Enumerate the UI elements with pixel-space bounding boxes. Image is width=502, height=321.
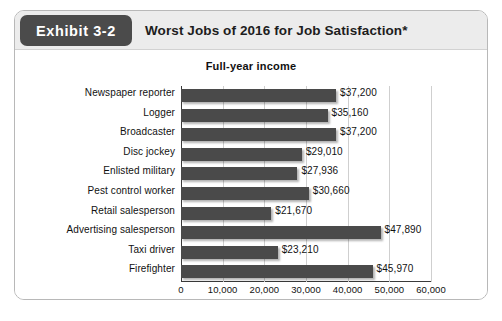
category-label: Broadcaster [120,126,175,137]
bar-row: Disc jockey$29,010 [181,145,431,165]
bar-value-label: $35,160 [332,107,369,118]
category-label: Newspaper reporter [85,87,175,98]
category-label: Pest control worker [88,185,176,196]
bar-value-label: $47,890 [385,224,422,235]
bar-row: Logger$35,160 [181,106,431,126]
bar-value-label: $30,660 [313,185,350,196]
x-tick-label: 60,000 [416,284,446,295]
bar-row: Pest control worker$30,660 [181,184,431,204]
bar [181,265,373,278]
bar [181,167,297,180]
x-tick-label: 0 [178,284,183,295]
x-tick-label: 30,000 [291,284,321,295]
bar-row: Advertising salesperson$47,890 [181,223,431,243]
bar-row: Broadcaster$37,200 [181,125,431,145]
category-label: Advertising salesperson [67,224,175,235]
bar [181,246,278,259]
category-label: Disc jockey [123,146,175,157]
bar-chart-plot: Newspaper reporter$37,200Logger$35,160Br… [181,86,431,282]
bar [181,128,336,141]
x-tick-label: 10,000 [208,284,238,295]
x-axis-tick-labels: 010,00020,00030,00040,00050,00060,000 [181,284,431,300]
bar-value-label: $27,936 [301,165,338,176]
bar-value-label: $37,200 [340,126,377,137]
category-label: Firefighter [129,263,175,274]
category-label: Retail salesperson [91,205,175,216]
exhibit-number-badge: Exhibit 3-2 [20,15,132,46]
bar [181,109,328,122]
exhibit-frame: Exhibit 3-2 Worst Jobs of 2016 for Job S… [14,10,488,300]
bar-row: Firefighter$45,970 [181,262,431,282]
bar-value-label: $37,200 [340,87,377,98]
bar [181,187,309,200]
category-label: Taxi driver [128,244,175,255]
bar [181,207,271,220]
gridline [431,86,432,282]
bar-row: Taxi driver$23,210 [181,243,431,263]
chart-area: Full-year income Newspaper reporter$37,2… [15,50,487,299]
x-tick-label: 20,000 [249,284,279,295]
bar-row: Retail salesperson$21,670 [181,204,431,224]
bar-row: Enlisted military$27,936 [181,164,431,184]
bar-value-label: $23,210 [282,244,319,255]
x-tick-label: 40,000 [333,284,363,295]
exhibit-title: Worst Jobs of 2016 for Job Satisfaction* [145,11,408,49]
bar-value-label: $45,970 [377,263,414,274]
exhibit-header: Exhibit 3-2 Worst Jobs of 2016 for Job S… [15,11,487,50]
bar-value-label: $29,010 [306,146,343,157]
category-label: Enlisted military [103,165,175,176]
x-tick-label: 50,000 [374,284,404,295]
bar-value-label: $21,670 [275,205,312,216]
bar [181,148,302,161]
chart-title: Full-year income [15,60,487,72]
bar [181,226,381,239]
bar-row: Newspaper reporter$37,200 [181,86,431,106]
category-label: Logger [143,107,175,118]
bar [181,89,336,102]
